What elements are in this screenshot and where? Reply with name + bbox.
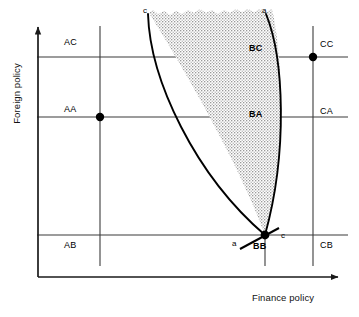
curve-a-bottom-label: a bbox=[232, 239, 236, 248]
grid-label-cc: CC bbox=[320, 39, 333, 49]
diagram-canvas bbox=[0, 0, 359, 317]
point-aa bbox=[96, 113, 104, 121]
grid-label-bc: BC bbox=[249, 43, 262, 53]
x-axis-label: Finance policy bbox=[252, 292, 314, 303]
grid-label-ba: BA bbox=[249, 109, 262, 119]
grid-label-aa: AA bbox=[64, 104, 76, 114]
point-cc bbox=[309, 53, 317, 61]
grid-label-cb: CB bbox=[320, 240, 333, 250]
grid-label-bb: BB bbox=[253, 241, 266, 251]
y-axis-label: Foreign policy bbox=[11, 54, 22, 134]
grid-label-ab: AB bbox=[64, 240, 76, 250]
grid-label-ac: AC bbox=[64, 37, 77, 47]
curve-c-bottom-label: c bbox=[281, 231, 285, 240]
curve-a-top-label: a bbox=[262, 6, 266, 15]
policy-assignment-diagram: Foreign policy Finance policy AC AA AB B… bbox=[0, 0, 359, 317]
curve-c-top-label: c bbox=[143, 6, 147, 15]
point-bb bbox=[261, 231, 270, 240]
grid-label-ca: CA bbox=[320, 106, 333, 116]
